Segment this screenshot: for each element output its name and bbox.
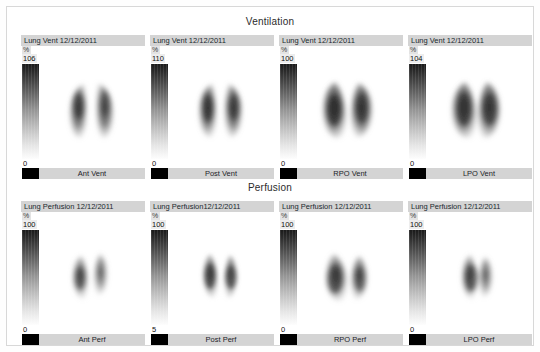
- panel-header: Lung Perfusion 12/12/2011: [408, 201, 532, 212]
- panel-post-perf[interactable]: Lung Perfusion12/12/2011 % 100 5 Post Pe…: [150, 201, 274, 339]
- scale-max-value: 104: [409, 54, 424, 63]
- scale-min-value: 0: [281, 325, 285, 334]
- scale-min-value: 0: [281, 159, 285, 168]
- lung-scan-image-rpo: [301, 62, 401, 162]
- scale-unit-label: %: [409, 46, 418, 54]
- panel-header: Lung Perfusion 12/12/2011: [21, 201, 145, 212]
- intensity-colorbar: [22, 230, 39, 325]
- intensity-colorbar: [409, 230, 426, 325]
- scale-max-value: 106: [22, 54, 37, 63]
- colorbar-base-swatch: [151, 334, 168, 345]
- panel-lpo-perf[interactable]: Lung Perfusion 12/12/2011 % 100 0 LPO Pe…: [408, 201, 532, 339]
- intensity-colorbar: [409, 64, 426, 159]
- panel-header: Lung Perfusion 12/12/2011: [279, 201, 403, 212]
- scale-min-value: 0: [23, 159, 27, 168]
- scale-unit-label: %: [22, 212, 31, 220]
- scale-min-value: 0: [410, 159, 414, 168]
- intensity-colorbar: [151, 230, 168, 325]
- scale-min-value: 0: [23, 325, 27, 334]
- panel-caption: Ant Vent: [39, 168, 145, 179]
- lung-scan-image-lpo: [430, 228, 530, 328]
- panel-post-vent[interactable]: Lung Vent 12/12/2011 % 110 0 Post Vent: [150, 35, 274, 173]
- panel-lpo-vent[interactable]: Lung Vent 12/12/2011 % 104 0 LPO Vent: [408, 35, 532, 173]
- panel-caption: RPO Vent: [297, 168, 403, 179]
- lung-scan-image-posterior: [172, 62, 272, 162]
- scale-unit-label: %: [22, 46, 31, 54]
- colorbar-base-swatch: [409, 168, 426, 179]
- panel-body: % 110 0 Post Vent: [150, 46, 274, 173]
- scale-max-value: 100: [409, 220, 424, 229]
- panel-caption: LPO Vent: [426, 168, 532, 179]
- report-frame: Ventilation Perfusion Lung Vent 12/12/20…: [6, 6, 534, 346]
- intensity-colorbar: [280, 230, 297, 325]
- scale-min-value: 5: [152, 325, 156, 334]
- panel-rpo-vent[interactable]: Lung Vent 12/12/2011 % 100 0 RPO Vent: [279, 35, 403, 173]
- lung-scan-image-anterior: [43, 228, 143, 328]
- lung-scan-image-rpo: [301, 228, 401, 328]
- panel-caption: Post Perf: [168, 334, 274, 345]
- panel-caption: Ant Perf: [39, 334, 145, 345]
- panel-ant-perf[interactable]: Lung Perfusion 12/12/2011 % 100 0 Ant Pe…: [21, 201, 145, 339]
- panel-ant-vent[interactable]: Lung Vent 12/12/2011 % 106 0 Ant Vent: [21, 35, 145, 173]
- panel-header: Lung Vent 12/12/2011: [408, 35, 532, 46]
- panel-caption: Post Vent: [168, 168, 274, 179]
- panel-body: % 104 0 LPO Vent: [408, 46, 532, 173]
- colorbar-base-swatch: [22, 168, 39, 179]
- panel-body: % 106 0 Ant Vent: [21, 46, 145, 173]
- colorbar-base-swatch: [22, 334, 39, 345]
- section-title-perfusion: Perfusion: [7, 182, 533, 193]
- panel-body: % 100 0 RPO Perf: [279, 212, 403, 339]
- intensity-colorbar: [151, 64, 168, 159]
- colorbar-base-swatch: [151, 168, 168, 179]
- scale-max-value: 100: [151, 220, 166, 229]
- panel-header: Lung Vent 12/12/2011: [150, 35, 274, 46]
- panel-caption: LPO Perf: [426, 334, 532, 345]
- scale-max-value: 100: [280, 220, 295, 229]
- scan-viewport: Ventilation Perfusion Lung Vent 12/12/20…: [0, 0, 540, 352]
- intensity-colorbar: [280, 64, 297, 159]
- scale-unit-label: %: [151, 46, 160, 54]
- scale-max-value: 100: [22, 220, 37, 229]
- colorbar-base-swatch: [280, 334, 297, 345]
- lung-scan-image-lpo: [430, 62, 530, 162]
- panel-header: Lung Vent 12/12/2011: [279, 35, 403, 46]
- panel-body: % 100 0 RPO Vent: [279, 46, 403, 173]
- scale-max-value: 100: [280, 54, 295, 63]
- scale-unit-label: %: [151, 212, 160, 220]
- lung-scan-image-anterior: [43, 62, 143, 162]
- section-title-ventilation: Ventilation: [7, 16, 533, 27]
- panel-body: % 100 0 Ant Perf: [21, 212, 145, 339]
- scale-min-value: 0: [410, 325, 414, 334]
- panel-header: Lung Vent 12/12/2011: [21, 35, 145, 46]
- panel-rpo-perf[interactable]: Lung Perfusion 12/12/2011 % 100 0 RPO Pe…: [279, 201, 403, 339]
- scale-unit-label: %: [409, 212, 418, 220]
- intensity-colorbar: [22, 64, 39, 159]
- panel-body: % 100 0 LPO Perf: [408, 212, 532, 339]
- panel-header: Lung Perfusion12/12/2011: [150, 201, 274, 212]
- scale-unit-label: %: [280, 46, 289, 54]
- colorbar-base-swatch: [280, 168, 297, 179]
- panel-body: % 100 5 Post Perf: [150, 212, 274, 339]
- scale-max-value: 110: [151, 54, 165, 63]
- colorbar-base-swatch: [409, 334, 426, 345]
- lung-scan-image-posterior: [172, 228, 272, 328]
- scale-min-value: 0: [152, 159, 156, 168]
- scale-unit-label: %: [280, 212, 289, 220]
- panel-caption: RPO Perf: [297, 334, 403, 345]
